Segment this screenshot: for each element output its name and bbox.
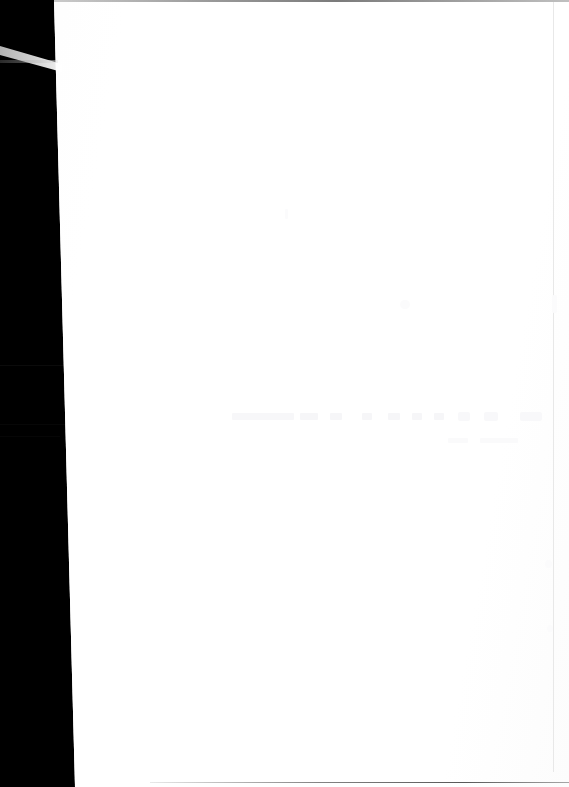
ghost-toolbar — [0, 410, 569, 426]
ghost-toolbar-item — [484, 412, 498, 421]
page-smudge — [400, 300, 410, 309]
ghost-toolbar-subitem — [448, 438, 468, 443]
ghost-toolbar-item — [412, 413, 422, 420]
ghost-toolbar-subitem — [480, 438, 518, 443]
page-smudge — [545, 560, 552, 568]
ghost-toolbar-item — [388, 413, 400, 420]
band-seam — [0, 424, 66, 425]
right-edge-hairline — [553, 2, 554, 772]
ghost-toolbar-item — [362, 413, 372, 420]
page-smudge — [547, 625, 553, 632]
top-edge-hairline — [54, 0, 569, 2]
band-seam — [0, 436, 60, 437]
ghost-toolbar-item — [300, 413, 318, 420]
bottom-edge-hairline — [150, 782, 569, 783]
document-surface — [0, 0, 569, 787]
band-seam — [0, 365, 72, 366]
page-sheen — [0, 0, 569, 787]
page-smudge — [285, 209, 288, 219]
ghost-toolbar-item — [232, 413, 294, 420]
ghost-toolbar-item — [520, 412, 542, 421]
ghost-toolbar-item — [458, 412, 470, 421]
ghost-toolbar-item — [330, 413, 342, 420]
screenshot-canvas — [0, 0, 569, 787]
ghost-toolbar-item — [434, 413, 444, 420]
page-smudge — [552, 295, 557, 313]
light-streak-glow — [0, 60, 58, 63]
